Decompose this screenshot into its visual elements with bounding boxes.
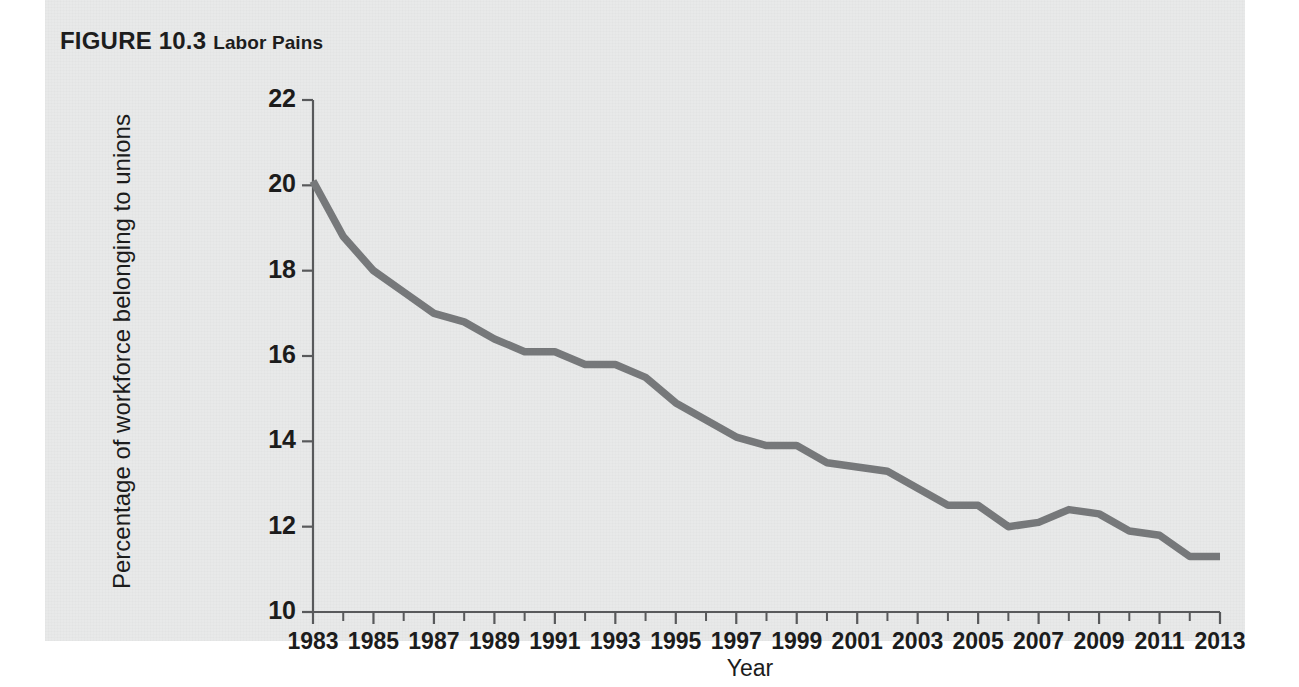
x-axis-tick-label: 2013 xyxy=(1180,628,1260,655)
ticks-group xyxy=(302,100,1220,624)
y-axis-tick-label: 16 xyxy=(250,340,296,369)
x-axis-title: Year xyxy=(700,655,800,682)
y-axis-tick-label: 10 xyxy=(250,596,296,625)
line-chart-plot xyxy=(0,0,1299,687)
y-axis-tick-label: 12 xyxy=(250,511,296,540)
chart-area: 22201816141210 1983198519871989199119931… xyxy=(0,0,1299,687)
axes-group xyxy=(313,100,1220,612)
figure-root: FIGURE 10.3Labor Pains 22201816141210 19… xyxy=(0,0,1299,687)
y-axis-tick-label: 14 xyxy=(250,425,296,454)
y-axis-title: Percentage of workforce belonging to uni… xyxy=(108,129,136,589)
union-membership-line xyxy=(313,181,1220,556)
y-axis-tick-label: 18 xyxy=(250,255,296,284)
y-axis-tick-label: 20 xyxy=(250,169,296,198)
y-axis-tick-label: 22 xyxy=(250,84,296,113)
